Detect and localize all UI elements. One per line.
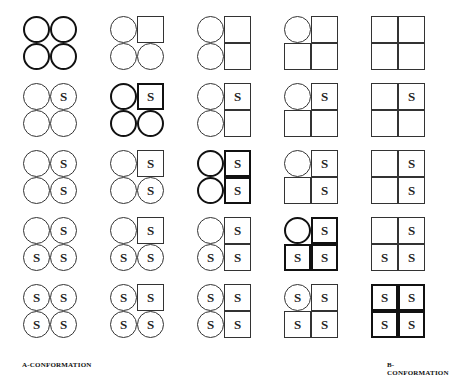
tetramer-r3-c5: SS (371, 150, 427, 206)
substrate-label: S (408, 157, 415, 170)
substrate-label: S (147, 184, 154, 197)
substrate-label: S (234, 157, 241, 170)
substrate-label: S (234, 90, 241, 103)
substrate-label: S (60, 291, 67, 304)
square-subunit-icon: S (311, 150, 338, 177)
substrate-label: S (60, 157, 67, 170)
square-subunit-icon: S (398, 150, 425, 177)
square-subunit-icon: S (224, 83, 251, 110)
circle-subunit-icon: S (50, 177, 77, 204)
circle-subunit-icon (110, 150, 137, 177)
square-subunit-icon (371, 43, 398, 70)
circle-subunit-icon: S (50, 150, 77, 177)
square-subunit-icon: S (137, 150, 164, 177)
substrate-label: S (234, 291, 241, 304)
b-conformation-label: B-CONFORMATION (387, 361, 449, 377)
circle-subunit-icon: S (50, 217, 77, 244)
substrate-label: S (408, 291, 415, 304)
substrate-label: S (408, 318, 415, 331)
square-subunit-icon: S (224, 150, 251, 177)
substrate-label: S (33, 251, 40, 264)
circle-subunit-icon (23, 177, 50, 204)
square-subunit-icon (284, 110, 311, 137)
substrate-label: S (207, 318, 214, 331)
substrate-label: S (381, 318, 388, 331)
square-subunit-icon (371, 16, 398, 43)
circle-subunit-icon (23, 217, 50, 244)
circle-subunit-icon (23, 150, 50, 177)
square-subunit-icon: S (311, 83, 338, 110)
square-subunit-icon (137, 16, 164, 43)
substrate-label: S (60, 184, 67, 197)
substrate-label: S (60, 318, 67, 331)
tetramer-r5-c5: SSSS (371, 284, 427, 340)
square-subunit-icon: S (398, 284, 425, 311)
substrate-label: S (60, 251, 67, 264)
substrate-label: S (60, 224, 67, 237)
substrate-label: S (408, 224, 415, 237)
substrate-label: S (207, 291, 214, 304)
tetramer-r3-c1: SS (23, 150, 79, 206)
circle-subunit-icon (284, 16, 311, 43)
substrate-label: S (33, 291, 40, 304)
tetramer-r2-c5: S (371, 83, 427, 139)
substrate-label: S (147, 251, 154, 264)
square-subunit-icon: S (224, 217, 251, 244)
substrate-label: S (234, 318, 241, 331)
square-subunit-icon: S (398, 311, 425, 338)
circle-subunit-icon (197, 177, 224, 204)
circle-subunit-icon (197, 110, 224, 137)
square-subunit-icon: S (371, 284, 398, 311)
substrate-label: S (321, 184, 328, 197)
substrate-label: S (294, 291, 301, 304)
circle-subunit-icon (110, 177, 137, 204)
square-subunit-icon (371, 177, 398, 204)
tetramer-r2-c2: S (110, 83, 166, 139)
square-subunit-icon: S (398, 177, 425, 204)
tetramer-r4-c2: SSS (110, 217, 166, 273)
tetramer-r5-c3: SSSS (197, 284, 253, 340)
square-subunit-icon: S (137, 83, 164, 110)
square-subunit-icon: S (398, 217, 425, 244)
circle-subunit-icon (284, 217, 311, 244)
square-subunit-icon (224, 43, 251, 70)
tetramer-r5-c1: SSSS (23, 284, 79, 340)
circle-subunit-icon: S (110, 311, 137, 338)
circle-subunit-icon (197, 83, 224, 110)
square-subunit-icon: S (284, 311, 311, 338)
circle-subunit-icon: S (50, 244, 77, 271)
square-subunit-icon: S (311, 244, 338, 271)
square-subunit-icon (284, 43, 311, 70)
circle-subunit-icon: S (197, 311, 224, 338)
substrate-label: S (321, 224, 328, 237)
substrate-label: S (321, 157, 328, 170)
substrate-label: S (234, 184, 241, 197)
square-subunit-icon (284, 177, 311, 204)
substrate-label: S (120, 291, 127, 304)
square-subunit-icon: S (137, 217, 164, 244)
square-subunit-icon: S (311, 177, 338, 204)
circle-subunit-icon (23, 43, 50, 70)
tetramer-r1-c4 (284, 16, 340, 72)
substrate-label: S (408, 251, 415, 264)
tetramer-r5-c4: SSSS (284, 284, 340, 340)
circle-subunit-icon (110, 217, 137, 244)
tetramer-r5-c2: SSSS (110, 284, 166, 340)
substrate-label: S (120, 318, 127, 331)
square-subunit-icon (311, 110, 338, 137)
substrate-label: S (321, 251, 328, 264)
substrate-label: S (147, 224, 154, 237)
tetramer-r1-c3 (197, 16, 253, 72)
circle-subunit-icon (197, 43, 224, 70)
substrate-label: S (408, 90, 415, 103)
square-subunit-icon (224, 16, 251, 43)
circle-subunit-icon (23, 16, 50, 43)
circle-subunit-icon: S (137, 311, 164, 338)
square-subunit-icon: S (224, 284, 251, 311)
substrate-label: S (147, 90, 154, 103)
circle-subunit-icon (284, 150, 311, 177)
substrate-label: S (294, 318, 301, 331)
substrate-label: S (147, 291, 154, 304)
circle-subunit-icon (197, 16, 224, 43)
